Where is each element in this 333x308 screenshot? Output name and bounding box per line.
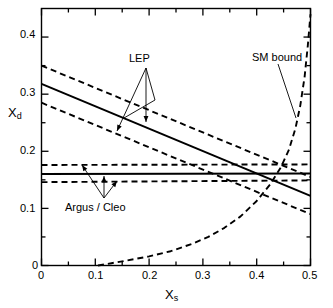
y-tick-label: 0.4 bbox=[20, 29, 35, 40]
annotation-sm-bound: SM bound bbox=[252, 52, 302, 63]
y-tick-label: 0.2 bbox=[20, 145, 35, 156]
y-axis-title-text: X bbox=[8, 105, 17, 120]
annotation-lep: LEP bbox=[129, 53, 150, 64]
axes-frame bbox=[42, 9, 311, 266]
x-tick-label: 0.5 bbox=[302, 270, 317, 281]
y-axis-title-sub: d bbox=[17, 111, 22, 121]
annotation-argus-cleo: Argus / Cleo bbox=[65, 202, 126, 213]
x-axis-title-text: X bbox=[165, 287, 174, 302]
series-lep-lower bbox=[42, 103, 311, 214]
series-lep-central bbox=[42, 84, 311, 196]
argus-leader-left-arrowhead bbox=[82, 165, 87, 171]
lep-leader-right-a bbox=[146, 68, 155, 100]
series-argus-cleo-lower bbox=[42, 180, 311, 182]
axis-ticks bbox=[42, 9, 311, 266]
series-lep-upper bbox=[42, 66, 311, 177]
x-tick-label: 0.1 bbox=[88, 270, 103, 281]
plot-canvas bbox=[0, 0, 333, 308]
series-argus-cleo-upper bbox=[42, 164, 311, 165]
x-tick-label: 0.4 bbox=[249, 270, 264, 281]
argus-leader-mid-arrowhead bbox=[102, 176, 107, 182]
x-tick-label: 0 bbox=[38, 270, 44, 281]
series-argus-cleo-central bbox=[42, 174, 311, 175]
x-axis-title-sub: s bbox=[174, 293, 179, 303]
x-tick-label: 0.2 bbox=[142, 270, 157, 281]
annotation-leaders bbox=[82, 64, 296, 198]
y-axis-title: Xd bbox=[8, 106, 22, 121]
figure-container: 0.4 0.3 0.2 0.1 0 0 0.1 0.2 0.3 0.4 0.5 … bbox=[0, 0, 333, 308]
x-tick-label: 0.3 bbox=[195, 270, 210, 281]
x-axis-title: Xs bbox=[165, 288, 178, 303]
y-tick-label: 0.1 bbox=[20, 203, 35, 214]
y-tick-label: 0.3 bbox=[20, 87, 35, 98]
sm-bound-leader bbox=[278, 64, 296, 118]
lep-leader-mid-arrowhead bbox=[144, 116, 149, 122]
plot-frame bbox=[42, 9, 311, 266]
lep-leader-left-arrowhead bbox=[117, 125, 122, 131]
